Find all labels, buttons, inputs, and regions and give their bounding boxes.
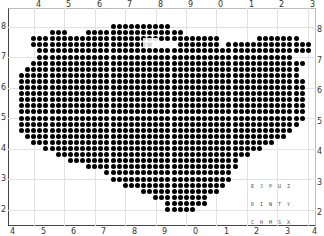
map-dot: [56, 42, 61, 47]
map-dot: [178, 36, 183, 41]
map-dot: [202, 85, 207, 90]
map-dot: [172, 79, 177, 84]
map-dot: [190, 128, 195, 133]
map-dot: [135, 55, 140, 60]
map-dot: [245, 128, 250, 133]
map-dot: [135, 152, 140, 157]
map-dot: [92, 55, 97, 60]
left-tick-label: 8: [1, 23, 6, 31]
map-dot: [294, 67, 299, 72]
map-dot: [68, 79, 73, 84]
map-dot: [37, 61, 42, 66]
map-dot: [117, 42, 122, 47]
map-dot: [129, 122, 134, 127]
map-dot: [111, 42, 116, 47]
map-dot: [86, 73, 91, 78]
map-dot: [141, 177, 146, 182]
map-dot: [117, 164, 122, 169]
map-dot: [184, 61, 189, 66]
map-dot: [208, 116, 213, 121]
map-dot: [294, 91, 299, 96]
map-dot: [275, 134, 280, 139]
map-dot: [190, 122, 195, 127]
map-dot: [92, 61, 97, 66]
map-dot: [80, 79, 85, 84]
map-dot: [135, 183, 140, 188]
map-dot: [257, 85, 262, 90]
map-dot: [68, 134, 73, 139]
map-dot: [56, 146, 61, 151]
left-tick-label: 7: [1, 53, 6, 61]
map-dot: [281, 116, 286, 121]
map-dot: [239, 97, 244, 102]
map-dot: [190, 134, 195, 139]
map-dot: [184, 207, 189, 212]
map-dot: [117, 61, 122, 66]
map-dot: [147, 55, 152, 60]
map-dot: [190, 67, 195, 72]
map-dot: [111, 48, 116, 53]
map-dot: [239, 91, 244, 96]
map-dot: [251, 140, 256, 145]
map-dot: [233, 146, 238, 151]
map-dot: [56, 79, 61, 84]
map-dot: [178, 79, 183, 84]
map-dot: [31, 73, 36, 78]
map-dot: [117, 30, 122, 35]
right-tick-label: 6: [317, 87, 322, 95]
map-dot: [184, 73, 189, 78]
map-dot: [251, 128, 256, 133]
top-tick-label: 8: [158, 1, 163, 9]
map-dot: [184, 201, 189, 206]
map-dot: [294, 61, 299, 66]
map-dot: [111, 152, 116, 157]
map-dot: [190, 79, 195, 84]
map-dot: [62, 79, 67, 84]
map-dot: [294, 109, 299, 114]
map-dot: [50, 67, 55, 72]
map-dot: [202, 116, 207, 121]
map-dot: [62, 140, 67, 145]
map-dot: [56, 97, 61, 102]
map-dot: [129, 146, 134, 151]
map-dot: [202, 61, 207, 66]
map-dot: [257, 55, 262, 60]
map-dot: [257, 91, 262, 96]
map-dot: [178, 91, 183, 96]
map-dot: [141, 67, 146, 72]
map-dot: [294, 116, 299, 121]
map-dot: [233, 109, 238, 114]
map-dot: [56, 134, 61, 139]
map-dot: [196, 79, 201, 84]
map-dot: [111, 24, 116, 29]
map-dot: [196, 73, 201, 78]
map-dot: [129, 67, 134, 72]
map-dot: [178, 128, 183, 133]
map-dot: [263, 61, 268, 66]
map-dot: [233, 73, 238, 78]
map-dot: [178, 73, 183, 78]
map-dot: [129, 128, 134, 133]
map-dot: [43, 116, 48, 121]
map-dot: [263, 128, 268, 133]
map-dot: [184, 122, 189, 127]
map-dot: [141, 189, 146, 194]
map-dot: [184, 195, 189, 200]
map-dot: [233, 91, 238, 96]
map-dot: [123, 91, 128, 96]
map-dot: [50, 79, 55, 84]
map-dot: [172, 103, 177, 108]
map-dot: [245, 116, 250, 121]
dot-map-canvas: 45678901234567890123487654328765432 E J …: [0, 0, 324, 236]
map-dot: [153, 195, 158, 200]
map-dot: [80, 55, 85, 60]
map-dot: [68, 97, 73, 102]
map-dot: [141, 61, 146, 66]
map-dot: [25, 128, 30, 133]
map-dot: [31, 116, 36, 121]
map-dot: [153, 134, 158, 139]
left-tick-label: 4: [1, 145, 6, 153]
map-dot: [141, 73, 146, 78]
map-dot: [300, 97, 305, 102]
map-dot: [50, 109, 55, 114]
